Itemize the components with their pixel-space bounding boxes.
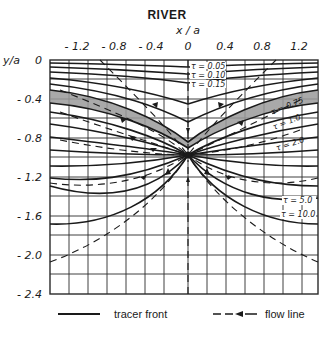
svg-text:τ = 5.0: τ = 5.0: [283, 196, 312, 205]
svg-text:τ = 0.15: τ = 0.15: [191, 80, 225, 89]
grid: [50, 60, 318, 294]
dashed-arrow-line-icon: [213, 309, 257, 319]
svg-text:τ = 0.10: τ = 0.10: [191, 71, 225, 80]
svg-text:τ = 10.0: τ = 10.0: [281, 210, 315, 219]
legend-label: tracer front: [114, 308, 167, 320]
legend-tracer-front: tracer front: [58, 308, 167, 320]
solid-line-icon: [58, 313, 100, 315]
svg-text:τ = 0.05: τ = 0.05: [191, 62, 225, 71]
legend-label: flow line: [265, 308, 305, 320]
legend-flow-line: flow line: [213, 308, 305, 320]
well-point-icon: [185, 152, 192, 159]
flow-diagram-plot: τ = 0.05 τ = 0.10 τ = 0.15 τ = 0.75 τ = …: [0, 0, 334, 339]
tau-labels: τ = 0.05 τ = 0.10 τ = 0.15 τ = 0.75 τ = …: [190, 62, 316, 220]
